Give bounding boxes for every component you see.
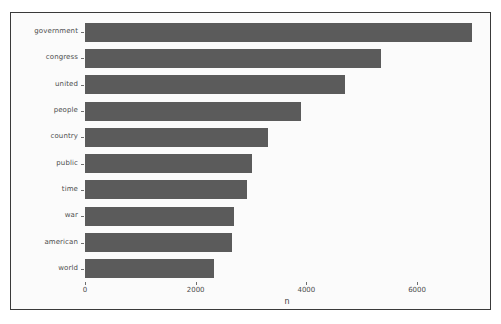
x-tick-mark bbox=[85, 282, 86, 285]
x-tick-label-0: 0 bbox=[83, 286, 87, 294]
bar-people bbox=[85, 102, 301, 121]
bar-government bbox=[85, 23, 472, 42]
bar-congress bbox=[85, 49, 381, 68]
y-tick-mark bbox=[81, 85, 84, 86]
y-tick-mark bbox=[81, 243, 84, 244]
y-tick-label-people: people bbox=[54, 106, 78, 114]
y-tick-label-united: united bbox=[55, 80, 78, 88]
y-tick-label-time: time bbox=[62, 185, 78, 193]
bar-country bbox=[85, 128, 268, 147]
x-tick-mark bbox=[196, 282, 197, 285]
y-tick-mark bbox=[81, 269, 84, 270]
bar-row bbox=[85, 233, 489, 252]
bar-war bbox=[85, 207, 234, 226]
chart-figure: 0200040006000 n governmentcongressunited… bbox=[0, 0, 501, 324]
bar-row bbox=[85, 75, 489, 94]
y-tick-label-public: public bbox=[56, 159, 78, 167]
bar-row bbox=[85, 259, 489, 278]
bar-row bbox=[85, 154, 489, 173]
y-tick-mark bbox=[81, 190, 84, 191]
y-tick-mark bbox=[81, 137, 84, 138]
plot-frame: 0200040006000 n governmentcongressunited… bbox=[10, 12, 491, 310]
bar-row bbox=[85, 102, 489, 121]
bar-row bbox=[85, 49, 489, 68]
bar-world bbox=[85, 259, 214, 278]
bar-row bbox=[85, 128, 489, 147]
y-tick-label-government: government bbox=[34, 27, 78, 35]
plot-panel bbox=[85, 19, 489, 282]
bar-row bbox=[85, 180, 489, 199]
x-axis-title: n bbox=[85, 297, 489, 306]
bar-row bbox=[85, 207, 489, 226]
x-tick-label-6000: 6000 bbox=[408, 286, 426, 294]
bar-time bbox=[85, 180, 247, 199]
y-tick-mark bbox=[81, 164, 84, 165]
x-tick-label-2000: 2000 bbox=[187, 286, 205, 294]
x-tick-mark bbox=[306, 282, 307, 285]
x-tick-label-4000: 4000 bbox=[297, 286, 315, 294]
y-tick-label-congress: congress bbox=[46, 53, 78, 61]
y-tick-mark bbox=[81, 32, 84, 33]
x-tick-mark bbox=[417, 282, 418, 285]
bar-row bbox=[85, 23, 489, 42]
y-tick-label-world: world bbox=[58, 264, 78, 272]
y-tick-mark bbox=[81, 216, 84, 217]
y-tick-label-american: american bbox=[44, 238, 78, 246]
bar-united bbox=[85, 75, 345, 94]
y-tick-mark bbox=[81, 111, 84, 112]
bar-american bbox=[85, 233, 232, 252]
y-tick-label-war: war bbox=[65, 211, 78, 219]
y-tick-label-country: country bbox=[51, 132, 78, 140]
y-tick-mark bbox=[81, 58, 84, 59]
bar-public bbox=[85, 154, 252, 173]
